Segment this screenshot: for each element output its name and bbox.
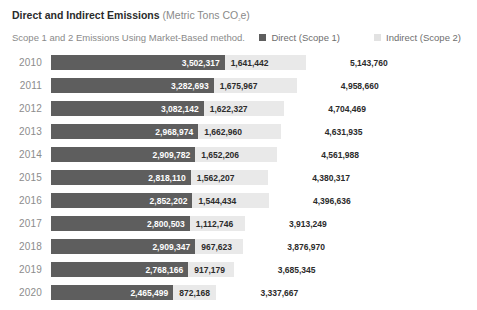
chart-row: 20172,800,5031,112,7463,913,249: [12, 212, 477, 235]
chart-row: 20132,968,9741,662,9604,631,935: [12, 120, 477, 143]
chart-title: Direct and Indirect Emissions (Metric To…: [12, 9, 467, 24]
stacked-bar: 2,852,2021,544,4344,396,636: [51, 193, 477, 208]
bar-value-indirect: 1,112,746: [196, 219, 233, 229]
bar-segment-indirect[interactable]: 917,179: [188, 262, 233, 277]
bar-segment-direct[interactable]: 2,852,202: [51, 193, 192, 208]
bar-total-label: 3,876,970: [287, 242, 325, 252]
bar-segment-indirect[interactable]: 1,562,207: [191, 170, 268, 185]
bar-value-indirect: 1,544,434: [198, 196, 236, 206]
year-label: 2018: [12, 241, 51, 252]
bar-segment-direct[interactable]: 2,768,166: [51, 262, 188, 277]
year-label: 2020: [12, 287, 51, 298]
bar-segment-indirect[interactable]: 1,675,967: [214, 78, 297, 93]
stacked-bar: 2,818,1101,562,2074,380,317: [51, 170, 477, 185]
bar-segment-indirect[interactable]: 1,652,206: [195, 147, 277, 162]
bar-segment-indirect[interactable]: 1,622,327: [204, 101, 284, 116]
chart-plot-area: 20103,502,3171,641,4425,143,76020113,282…: [0, 51, 477, 304]
year-label: 2014: [12, 149, 51, 160]
bar-value-indirect: 1,641,442: [231, 58, 269, 68]
bar-total-label: 3,685,345: [278, 265, 316, 275]
bar-segment-direct[interactable]: 2,968,974: [51, 124, 198, 139]
legend-item-indirect[interactable]: Indirect (Scope 2): [374, 32, 461, 43]
bar-value-direct: 2,768,166: [145, 265, 183, 275]
bar-segment-direct[interactable]: 2,909,782: [51, 147, 195, 162]
bar-segment-indirect[interactable]: 1,641,442: [225, 55, 306, 70]
chart-row: 20123,082,1421,622,3274,704,469: [12, 97, 477, 120]
bar-value-direct: 2,909,347: [152, 242, 190, 252]
chart-row: 20142,909,7821,652,2064,561,988: [12, 143, 477, 166]
bar-value-direct: 2,465,499: [130, 288, 168, 298]
bar-segment-direct[interactable]: 2,465,499: [51, 285, 173, 300]
bar-total-label: 4,631,935: [325, 127, 363, 137]
bar-value-direct: 3,502,317: [182, 58, 220, 68]
bar-value-direct: 3,282,693: [171, 81, 209, 91]
bar-value-indirect: 1,562,207: [197, 173, 235, 183]
stacked-bar: 2,800,5031,112,7463,913,249: [51, 216, 477, 231]
bar-segment-direct[interactable]: 3,082,142: [51, 101, 204, 116]
bar-value-direct: 2,800,503: [147, 219, 185, 229]
stacked-bar: 2,465,499872,1683,337,667: [51, 285, 477, 300]
bar-value-indirect: 1,652,206: [201, 150, 239, 160]
stacked-bar: 3,282,6931,675,9674,958,660: [51, 78, 477, 93]
bar-value-direct: 2,968,974: [155, 127, 193, 137]
chart-row: 20192,768,166917,1793,685,345: [12, 258, 477, 281]
year-label: 2010: [12, 57, 51, 68]
bar-value-indirect: 1,675,967: [220, 81, 258, 91]
chart-header: Direct and Indirect Emissions (Metric To…: [0, 0, 477, 43]
bar-value-indirect: 1,662,960: [204, 127, 242, 137]
bar-value-indirect: 1,622,327: [210, 104, 248, 114]
legend-label-indirect: Indirect (Scope 2): [386, 32, 461, 43]
bar-segment-direct[interactable]: 3,282,693: [51, 78, 214, 93]
bar-total-label: 3,913,249: [289, 219, 327, 229]
bar-total-label: 4,396,636: [313, 196, 351, 206]
chart-row: 20202,465,499872,1683,337,667: [12, 281, 477, 304]
chart-row: 20103,502,3171,641,4425,143,760: [12, 51, 477, 74]
chart-title-unit-pre: (Metric Tons CO: [160, 9, 239, 21]
legend-swatch-direct-icon: [259, 34, 266, 41]
chart-row: 20182,909,347967,6233,876,970: [12, 235, 477, 258]
year-label: 2012: [12, 103, 51, 114]
chart-row: 20113,282,6931,675,9674,958,660: [12, 74, 477, 97]
stacked-bar: 2,909,7821,652,2064,561,988: [51, 147, 477, 162]
stacked-bar: 2,768,166917,1793,685,345: [51, 262, 477, 277]
year-label: 2017: [12, 218, 51, 229]
bar-value-direct: 3,082,142: [161, 104, 199, 114]
bar-total-label: 4,561,988: [321, 150, 359, 160]
legend-swatch-indirect-icon: [374, 34, 381, 41]
bar-value-direct: 2,909,782: [152, 150, 190, 160]
bar-segment-direct[interactable]: 2,818,110: [51, 170, 191, 185]
chart-title-main: Direct and Indirect Emissions: [12, 9, 160, 21]
chart-row: 20152,818,1101,562,2074,380,317: [12, 166, 477, 189]
year-label: 2019: [12, 264, 51, 275]
bar-segment-indirect[interactable]: 1,112,746: [190, 216, 245, 231]
legend-item-direct[interactable]: Direct (Scope 1): [259, 32, 340, 43]
chart-title-unit-post: e): [240, 9, 249, 21]
chart-row: 20162,852,2021,544,4344,396,636: [12, 189, 477, 212]
year-label: 2011: [12, 80, 51, 91]
bar-total-label: 4,704,469: [328, 104, 366, 114]
bar-segment-direct[interactable]: 2,909,347: [51, 239, 195, 254]
emissions-chart: Direct and Indirect Emissions (Metric To…: [0, 0, 477, 310]
stacked-bar: 2,968,9741,662,9604,631,935: [51, 124, 477, 139]
year-label: 2013: [12, 126, 51, 137]
bar-value-direct: 2,818,110: [148, 173, 185, 183]
bar-segment-indirect[interactable]: 872,168: [173, 285, 216, 300]
chart-subtitle: Scope 1 and 2 Emissions Using Market-Bas…: [12, 32, 245, 43]
bar-segment-direct[interactable]: 3,502,317: [51, 55, 225, 70]
bar-segment-indirect[interactable]: 1,544,434: [192, 193, 269, 208]
stacked-bar: 3,082,1421,622,3274,704,469: [51, 101, 477, 116]
subtitle-legend-row: Scope 1 and 2 Emissions Using Market-Bas…: [12, 32, 467, 43]
bar-segment-indirect[interactable]: 967,623: [195, 239, 243, 254]
bar-segment-indirect[interactable]: 1,662,960: [198, 124, 280, 139]
legend-label-direct: Direct (Scope 1): [271, 32, 340, 43]
chart-title-unit: (Metric Tons CO2e): [160, 9, 250, 21]
bar-total-label: 5,143,760: [350, 58, 388, 68]
bar-total-label: 4,958,660: [341, 81, 379, 91]
bar-value-indirect: 967,623: [201, 242, 232, 252]
bar-total-label: 4,380,317: [312, 173, 350, 183]
bar-value-indirect: 872,168: [179, 288, 210, 298]
year-label: 2016: [12, 195, 51, 206]
stacked-bar: 3,502,3171,641,4425,143,760: [51, 55, 477, 70]
bar-segment-direct[interactable]: 2,800,503: [51, 216, 190, 231]
bar-value-indirect: 917,179: [194, 265, 225, 275]
